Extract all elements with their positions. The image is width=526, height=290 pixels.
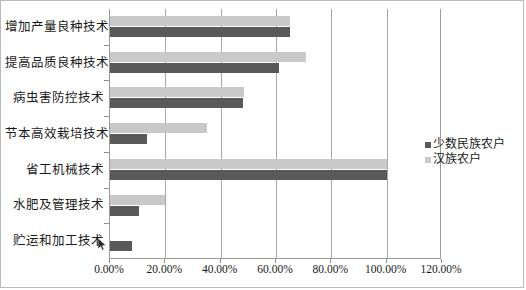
chart-legend: 少数民族农户汉族农户 bbox=[425, 137, 523, 167]
category-tick bbox=[104, 188, 109, 189]
category-label: 省工机械技术 bbox=[5, 163, 109, 177]
legend-swatch-icon bbox=[425, 157, 431, 163]
bar-group bbox=[110, 223, 440, 259]
x-axis-tick-label: 60.00% bbox=[257, 263, 292, 275]
bar-minority-household bbox=[110, 206, 139, 216]
bar-group bbox=[110, 116, 440, 152]
category-axis-labels: 增加产量良种技术提高品质良种技术病虫害防控技术节本高效栽培技术省工机械技术水肥及… bbox=[1, 9, 109, 259]
legend-item: 少数民族农户 bbox=[425, 137, 523, 152]
legend-label: 汉族农户 bbox=[433, 153, 481, 166]
category-label: 提高品质良种技术 bbox=[5, 56, 109, 70]
category-tick bbox=[104, 80, 109, 81]
bar-group bbox=[110, 188, 440, 224]
bar-han-household bbox=[110, 195, 165, 205]
bar-group bbox=[110, 9, 440, 45]
x-axis-tick bbox=[164, 259, 165, 263]
bar-group bbox=[110, 152, 440, 188]
x-axis-tick-label: 100.00% bbox=[365, 263, 406, 275]
x-axis-tick-label: 40.00% bbox=[202, 263, 237, 275]
bar-han-household bbox=[110, 87, 244, 97]
x-axis-tick-label: 80.00% bbox=[313, 263, 348, 275]
bar-han-household bbox=[110, 123, 207, 133]
legend-swatch-icon bbox=[425, 142, 431, 148]
category-tick bbox=[104, 152, 109, 153]
x-axis-tick bbox=[441, 259, 442, 263]
x-axis-tick-label: 120.00% bbox=[420, 263, 461, 275]
category-label: 贮运和加工技术 bbox=[5, 234, 109, 248]
bar-minority-household bbox=[110, 134, 147, 144]
category-label: 水肥及管理技术 bbox=[5, 198, 109, 212]
bar-group bbox=[110, 45, 440, 81]
bar-minority-household bbox=[110, 241, 132, 251]
category-label: 节本高效栽培技术 bbox=[5, 127, 109, 141]
bar-han-household bbox=[110, 52, 306, 62]
chart-container: 增加产量良种技术提高品质良种技术病虫害防控技术节本高效栽培技术省工机械技术水肥及… bbox=[0, 0, 524, 288]
category-tick bbox=[104, 116, 109, 117]
x-axis-tick bbox=[109, 259, 110, 263]
bar-han-household bbox=[110, 16, 290, 26]
x-axis-tick-label: 20.00% bbox=[147, 263, 182, 275]
x-axis-tick bbox=[386, 259, 387, 263]
bar-minority-household bbox=[110, 27, 290, 37]
bar-group bbox=[110, 80, 440, 116]
category-tick bbox=[104, 223, 109, 224]
legend-item: 汉族农户 bbox=[425, 152, 523, 167]
bar-han-household bbox=[110, 159, 387, 169]
category-tick bbox=[104, 45, 109, 46]
legend-label: 少数民族农户 bbox=[433, 138, 505, 151]
category-label: 增加产量良种技术 bbox=[5, 20, 109, 34]
bar-minority-household bbox=[110, 98, 243, 108]
category-label: 病虫害防控技术 bbox=[5, 91, 109, 105]
x-axis-tick-labels: 0.00%20.00%40.00%60.00%80.00%100.00%120.… bbox=[1, 263, 525, 283]
bar-minority-household bbox=[110, 170, 387, 180]
bar-minority-household bbox=[110, 63, 279, 73]
x-axis-tick bbox=[275, 259, 276, 263]
plot-area bbox=[109, 9, 441, 259]
x-axis-tick-label: 0.00% bbox=[94, 263, 124, 275]
x-axis-tick bbox=[220, 259, 221, 263]
x-axis-tick bbox=[330, 259, 331, 263]
